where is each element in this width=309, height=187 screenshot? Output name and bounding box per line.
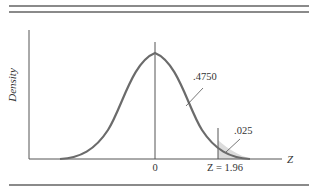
- normal-distribution-chart: Density Z 0 Z = 1.96 .4750 .025: [0, 0, 309, 187]
- leader-line-025: [226, 139, 240, 152]
- x-axis-label: Z: [287, 153, 294, 165]
- y-axis-label: Density: [6, 68, 18, 103]
- tick-label-zero: 0: [152, 162, 157, 173]
- area-label-4750: .4750: [193, 71, 217, 82]
- leader-line-4750: [186, 88, 203, 106]
- area-label-025: .025: [234, 125, 252, 136]
- tick-label-critical: Z = 1.96: [207, 162, 243, 173]
